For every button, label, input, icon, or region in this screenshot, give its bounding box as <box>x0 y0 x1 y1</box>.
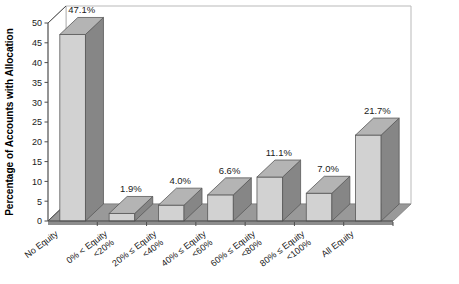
x-category-label-line: All Equity <box>320 228 356 259</box>
y-tick-label: 45 <box>32 38 42 48</box>
bar-front-face <box>257 177 283 221</box>
bar-column <box>356 118 400 221</box>
bar-column <box>60 17 104 221</box>
plot-floor-front-edge <box>48 221 393 225</box>
bar-value-label: 11.1% <box>266 147 293 158</box>
bar-value-label: 21.7% <box>364 105 391 116</box>
x-category-label: 0% < Equity<20% <box>65 228 117 274</box>
bar-front-face <box>158 205 184 221</box>
y-tick-label: 5 <box>37 197 42 207</box>
x-category-label-line: No Equity <box>23 228 61 260</box>
y-tick-label: 40 <box>32 58 42 68</box>
y-tick-label: 15 <box>32 157 42 167</box>
y-tick-label: 50 <box>32 18 42 28</box>
bar-front-face <box>109 213 135 221</box>
bar-side-face <box>381 118 399 221</box>
bar-front-face <box>60 34 86 221</box>
chart-container: 05101520253035404550Percentage of Accoun… <box>0 0 459 284</box>
y-tick-label: 25 <box>32 117 42 127</box>
x-category-label: 60% ≤ Equity<80% <box>209 228 264 277</box>
y-tick-label: 0 <box>37 216 42 226</box>
x-category-label: 20% ≤ Equity<40% <box>110 228 165 277</box>
y-tick-label: 20 <box>32 137 42 147</box>
bar-value-label: 7.0% <box>317 163 339 174</box>
x-category-label: No Equity <box>23 228 61 260</box>
x-category-label: 80% ≤ Equity<100% <box>258 228 313 277</box>
y-tick-label: 10 <box>32 177 42 187</box>
x-category-label: All Equity <box>320 228 356 259</box>
y-tick-label: 35 <box>32 78 42 88</box>
bar-value-label: 1.9% <box>120 183 142 194</box>
y-tick-label: 30 <box>32 98 42 108</box>
bar-front-face <box>208 195 234 221</box>
bar-front-face <box>306 193 332 221</box>
bar-value-label: 6.6% <box>219 165 241 176</box>
bar-front-face <box>356 135 382 221</box>
y-axis-title: Percentage of Accounts with Allocation <box>4 28 15 216</box>
bar-value-label: 4.0% <box>169 175 191 186</box>
bar-chart-3d: 05101520253035404550Percentage of Accoun… <box>0 0 459 284</box>
bar-side-face <box>85 17 103 221</box>
bar-value-label: 47.1% <box>68 4 95 15</box>
x-category-label: 40% ≤ Equity<60% <box>159 228 214 277</box>
